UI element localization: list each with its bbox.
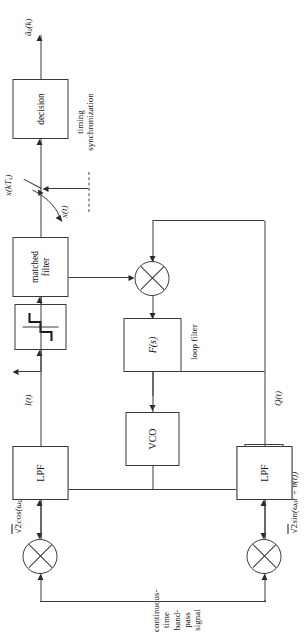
block-decision[interactable]: decision <box>12 79 68 139</box>
wire-timing-riser <box>45 188 88 189</box>
cos-fn: cos( <box>12 509 22 524</box>
arrowhead-output <box>36 35 42 41</box>
cos-radical: √2 <box>11 524 22 534</box>
xkts-close: ) <box>2 175 12 178</box>
block-vco[interactable]: VCO <box>125 412 179 466</box>
timing-sync-line1: timing <box>74 110 84 134</box>
mf-label-1: matched <box>29 251 39 283</box>
arrowhead-pd-in-right <box>149 256 155 262</box>
timing-sync-line2: synchronization <box>84 93 94 151</box>
lpf-quadrature-label-2: LPF <box>258 464 269 481</box>
diagram-canvas: continuous-time band-pass signal <box>0 0 307 642</box>
sin-radical: √2 <box>287 524 298 534</box>
block-loop-filter[interactable]: F(s) <box>123 318 181 372</box>
wire-i-to-mf <box>18 371 40 372</box>
arrowhead-mf-in <box>12 370 18 376</box>
timing-sync-label: timing synchronization <box>74 76 95 168</box>
arrowhead-loopfilter-in <box>149 313 155 319</box>
decision-label: decision <box>35 93 46 125</box>
mixer-phase-detector[interactable] <box>134 261 169 296</box>
wire-decision-out <box>40 35 41 79</box>
wire-lpf-i-out <box>40 372 41 446</box>
arrowhead-slicer-in <box>36 350 42 356</box>
sin-fn: sin( <box>288 510 298 524</box>
xkts-x: x(kT <box>2 180 12 196</box>
arrowhead-vco-in <box>149 405 155 411</box>
mixer-quadrature[interactable] <box>246 539 281 574</box>
arrowhead-sin-in <box>260 533 266 539</box>
mixer-inphase[interactable] <box>22 539 57 574</box>
block-diagram: continuous-time band-pass signal <box>0 0 307 642</box>
output-a: â <box>22 32 32 37</box>
wire-lf-vco-seg <box>152 372 153 412</box>
sin-omega: ω <box>288 504 298 510</box>
arrowhead-decision-in <box>36 139 42 145</box>
wire-q-into-pd <box>152 221 153 261</box>
arrowhead-lpf-q-in <box>260 500 266 506</box>
wire-q-riser <box>152 220 264 221</box>
block-lpf-inphase-top[interactable]: LPF <box>12 446 68 500</box>
label-inphase: I(t) <box>22 395 32 407</box>
wire-input-bus <box>40 601 264 602</box>
block-lpf-quadrature-bottom[interactable]: LPF <box>236 446 292 500</box>
output-k: (k) <box>22 18 32 28</box>
loop-filter-caption: loop filter <box>188 324 198 360</box>
label-decision-output: â0(k) <box>22 18 33 36</box>
wire-i-trunk-to-mf <box>40 297 41 372</box>
arrowhead-lpf-i-in <box>36 500 42 506</box>
lpf-inphase-label-2: LPF <box>34 464 45 481</box>
mf-label-2: filter <box>40 258 50 276</box>
arrowhead-i-mixer-in <box>37 574 43 580</box>
label-x-kts: x(kTs) <box>2 175 13 196</box>
arrowhead-mf-input <box>36 297 42 303</box>
loop-filter-label: F(s) <box>146 337 157 354</box>
arrowhead-q-mixer-in <box>261 574 267 580</box>
wire-q-run <box>264 221 265 372</box>
leader-curve <box>16 172 68 224</box>
block-matched-filter-main[interactable]: matched filter <box>12 237 68 297</box>
wire-timing-sync <box>88 172 89 212</box>
arrowhead-timing-sync <box>42 187 48 193</box>
vco-label: VCO <box>146 428 157 449</box>
wire-vco-to-bus <box>152 466 153 490</box>
arrowhead-pd-in-top <box>128 276 134 282</box>
input-label-line2: band-pass signal <box>171 609 202 631</box>
cos-omega: ω <box>12 502 22 508</box>
wire-lpf-q-out <box>264 372 265 446</box>
wire-q-to-pd <box>152 371 264 372</box>
input-label-line1: continuous-time <box>150 590 170 633</box>
sin-omega-sub: 0 <box>292 501 298 504</box>
output-a-sub: 0 <box>26 28 32 31</box>
input-signal-label: continuous-time band-pass signal <box>150 608 202 632</box>
arrowhead-cos-in <box>36 533 42 539</box>
label-quadrature: Q(t) <box>272 391 282 406</box>
